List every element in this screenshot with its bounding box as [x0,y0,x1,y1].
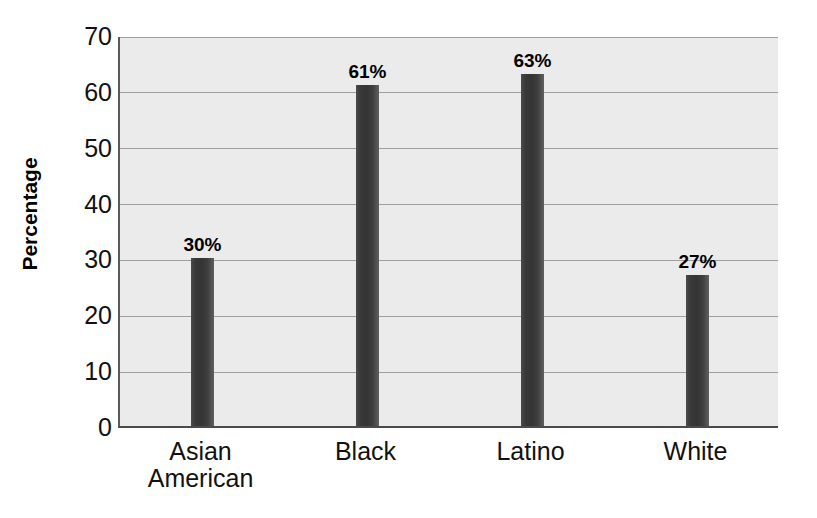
gridline [120,316,778,317]
bar-chart: Percentage 010203040506070 30%61%63%27% … [0,0,817,518]
gridline [120,372,778,373]
x-axis-tick-label-line: American [101,465,301,492]
y-axis-tick-label: 10 [60,359,112,384]
bar-value-label: 61% [328,62,408,81]
bar-value-label: 63% [493,51,573,70]
x-axis-tick-label-line: Latino [496,437,564,465]
y-axis-tick-label: 20 [60,303,112,328]
y-axis-title-text: Percentage [18,157,42,270]
gridline [120,37,778,38]
bar [521,74,544,426]
bar [191,258,214,426]
x-axis-tick-label: White [596,438,796,465]
bar-value-label: 30% [163,235,243,254]
bar [686,275,709,426]
x-axis-tick-label-line: Black [335,437,396,465]
x-axis-tick-label-line: White [664,437,728,465]
y-axis-title: Percentage [0,0,60,428]
y-axis-tick-label: 40 [60,192,112,217]
y-axis-tick-label: 70 [60,24,112,49]
y-axis-tick-label: 50 [60,136,112,161]
gridline [120,148,778,149]
y-axis-tick-label: 30 [60,247,112,272]
gridline [120,92,778,93]
x-axis-tick-label-line: Asian [169,437,232,465]
plot-inner: 30%61%63%27% [120,37,778,426]
bar-value-label: 27% [658,252,738,271]
gridline [120,204,778,205]
y-axis-tick-label: 0 [60,415,112,440]
y-axis-tick-label: 60 [60,80,112,105]
plot-area: 30%61%63%27% [118,37,778,428]
bar [356,85,379,426]
